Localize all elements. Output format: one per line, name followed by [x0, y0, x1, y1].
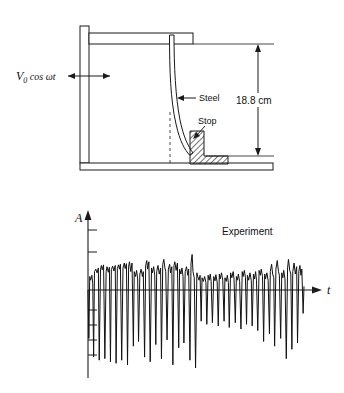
steel-label: Steel — [199, 93, 220, 103]
dimension-arrow-bottom — [255, 148, 261, 156]
figure-root: V0 cos ωt Steel Stop 18.8 cm — [0, 0, 344, 393]
y-axis-arrow — [85, 210, 92, 220]
figure-svg: V0 cos ωt Steel Stop 18.8 cm — [0, 0, 344, 393]
steel-beam-strip — [170, 35, 194, 155]
excitation-label-rest: cos ωt — [27, 71, 55, 82]
excitation-arrow-head-right — [103, 73, 110, 79]
signal-trace — [88, 254, 304, 368]
horizontal-arm — [89, 33, 193, 44]
base-plate-body — [80, 163, 273, 170]
x-axis-arrow — [312, 287, 322, 294]
apparatus-diagram: V0 cos ωt Steel Stop 18.8 cm — [16, 26, 281, 170]
steel-leader-arrow — [177, 95, 184, 101]
base-plate — [80, 163, 273, 170]
experiment-annotation: Experiment — [222, 226, 273, 237]
support-post — [80, 26, 89, 163]
steel-beam — [170, 35, 194, 155]
x-axis-label: t — [327, 283, 331, 297]
steel-leader — [177, 95, 196, 101]
dimension-label: 18.8 cm — [236, 95, 272, 106]
y-axis-label: A — [74, 211, 83, 225]
experiment-plot: A t Experiment — [74, 210, 331, 378]
excitation-arrow-head-left — [68, 73, 75, 79]
plot-y-axis — [85, 210, 97, 378]
stop-label: Stop — [198, 116, 217, 126]
support-post-body — [80, 26, 89, 163]
dimension-arrow-top — [255, 44, 261, 52]
horizontal-arm-body — [89, 33, 193, 44]
excitation-label: V0 cos ωt — [16, 69, 56, 85]
